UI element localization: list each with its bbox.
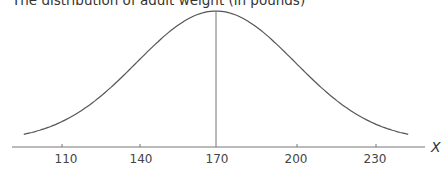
- tick-label-230: 230: [364, 152, 387, 166]
- x-axis-label: X: [430, 139, 441, 155]
- tick-label-110: 110: [55, 152, 78, 166]
- tick-label-140: 140: [130, 152, 153, 166]
- tick-label-170: 170: [206, 152, 229, 166]
- tick-label-200: 200: [285, 152, 308, 166]
- chart-canvas: 110 140 170 200 230 X: [0, 0, 443, 169]
